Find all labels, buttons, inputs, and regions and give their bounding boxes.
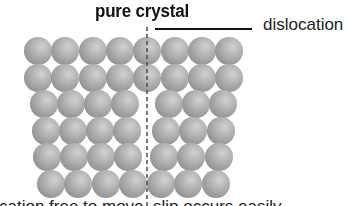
atom [92,170,120,198]
atom [79,37,107,65]
diagram-title: pure crystal [95,0,189,22]
diagram-caption: cation free to move, slip occurs easily [0,197,282,206]
atom [188,37,216,65]
atom [113,117,141,145]
atom [59,117,87,145]
dislocation-label: dislocation [263,14,343,36]
atom [111,90,139,118]
atom [155,90,183,118]
atom [51,64,79,92]
atom [86,117,114,145]
atom [57,90,85,118]
atom [64,170,92,198]
atom [37,170,65,198]
atom [33,143,61,171]
atom [209,90,237,118]
atom [161,64,189,92]
atom [114,143,142,171]
atom [177,143,205,171]
atom [24,37,52,65]
atom [87,143,115,171]
atom [174,170,202,198]
atom [60,143,88,171]
atom [84,90,112,118]
dislocation-leader-line [155,28,252,30]
atom [188,64,216,92]
atom [150,143,178,171]
atom [161,37,189,65]
atom [182,90,210,118]
atom [32,117,60,145]
atom [106,37,134,65]
atom [202,170,230,198]
atom [215,37,243,65]
atom [51,37,79,65]
atom [30,90,58,118]
atom [24,64,52,92]
atom [119,170,147,198]
atom-grid [24,37,243,198]
atom [207,117,235,145]
atom [179,117,207,145]
atom [79,64,107,92]
atom [106,64,134,92]
atom [215,64,243,92]
atom [152,117,180,145]
atom [205,143,233,171]
atom [147,170,175,198]
